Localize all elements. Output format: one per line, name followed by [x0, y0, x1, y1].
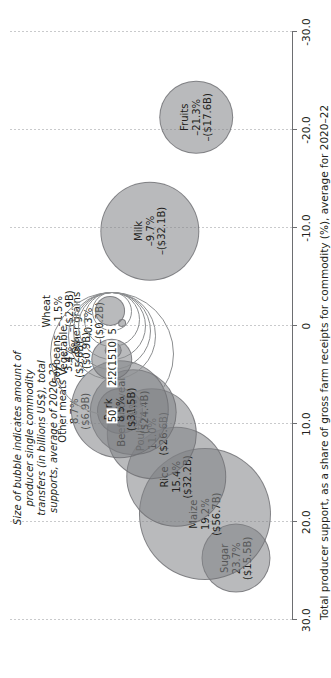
- x-axis-tick-label: 10.0: [300, 412, 312, 436]
- x-axis-tick-label: -20.0: [300, 116, 312, 144]
- size-legend-value-5: 5: [107, 327, 118, 335]
- x-axis-title: Total producer support, as a share of gr…: [318, 20, 331, 620]
- gridline: [10, 619, 292, 620]
- x-axis-tick-label: 30.0: [300, 608, 312, 632]
- size-legend-value-50: 50: [107, 409, 118, 424]
- x-axis-tick-label: 0: [300, 323, 312, 330]
- x-axis-tick: [292, 227, 297, 228]
- gridline: [10, 31, 292, 32]
- size-legend-circle-5: [92, 292, 131, 331]
- x-axis-tick: [292, 325, 297, 326]
- x-axis-tick: [292, 423, 297, 424]
- gridline: [10, 129, 292, 130]
- x-axis-line: [292, 32, 293, 620]
- bubble-fruits[interactable]: [159, 80, 233, 154]
- x-axis-tick-label: -30.0: [300, 18, 312, 46]
- x-axis-tick: [292, 619, 297, 620]
- size-legend-value-10: 10: [107, 340, 118, 355]
- x-axis-tick: [292, 521, 297, 522]
- x-axis-tick-label: -10.0: [300, 214, 312, 242]
- bubble-milk[interactable]: [100, 181, 199, 280]
- x-axis-tick: [292, 129, 297, 130]
- x-axis-tick: [292, 31, 297, 32]
- size-legend: Size of bubble indicates amount of produ…: [12, 278, 162, 528]
- x-axis-tick-label: 20.0: [300, 510, 312, 534]
